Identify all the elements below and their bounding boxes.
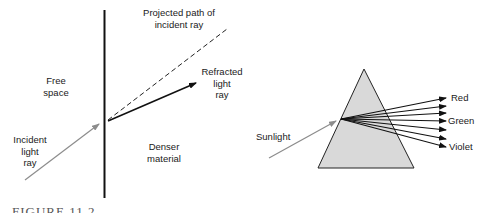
refracted-ray-label: Refracted light ray [194, 66, 250, 101]
free-space-label: Free space [36, 75, 76, 98]
prism-triangle [318, 69, 414, 168]
figure-caption: FIGURE 11.2 [12, 204, 95, 213]
sunlight-label: Sunlight [256, 131, 290, 143]
red-label: Red [451, 92, 468, 104]
refraction-and-dispersion-diagram [0, 0, 486, 213]
prism-panel [269, 69, 446, 168]
green-label: Green [448, 115, 474, 127]
projected-path-label: Projected path of incident ray [126, 7, 232, 30]
refracted-ray-arrow [108, 83, 196, 121]
violet-label: Violet [449, 141, 473, 153]
denser-material-label: Denser material [134, 141, 194, 164]
refraction-panel [25, 10, 227, 198]
incident-ray-label: Incident light ray [6, 134, 54, 169]
